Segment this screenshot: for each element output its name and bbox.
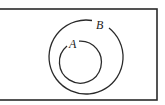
universal-set-rectangle — [0, 9, 157, 100]
set-b-label: B — [96, 18, 104, 32]
set-a-label: A — [68, 37, 77, 51]
set-a-circle — [59, 41, 101, 83]
venn-diagram: B A — [0, 0, 165, 105]
